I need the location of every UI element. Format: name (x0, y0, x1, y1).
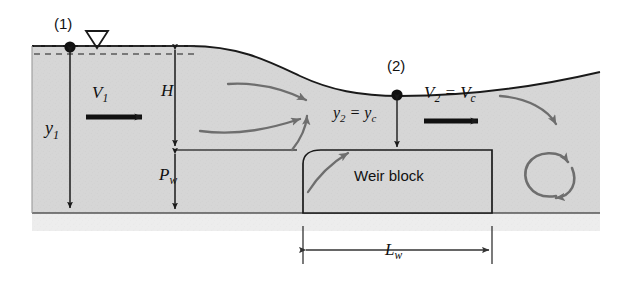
weir-length-label: Lw (385, 241, 402, 262)
critical-velocity-equals: = (440, 83, 460, 102)
velocity-upstream-subscript: 1 (102, 92, 108, 105)
weir-height-symbol: P (159, 165, 169, 184)
diagram-canvas (0, 0, 621, 289)
weir-height-subscript: w (169, 174, 177, 187)
critical-velocity-label: V2 = Vc (424, 84, 476, 105)
depth-upstream-symbol: y (45, 118, 53, 138)
velocity-upstream-label: V1 (92, 84, 108, 105)
critical-velocity-tail-symbol: V (460, 83, 470, 102)
station-label-2: (2) (387, 58, 405, 73)
critical-depth-tail-subscript: c (371, 112, 376, 124)
critical-velocity-lead-symbol: V (424, 83, 434, 102)
critical-depth-label: y2 = yc (333, 105, 376, 124)
weir-length-subscript: w (394, 249, 402, 262)
station-label-1: (1) (54, 16, 72, 31)
critical-depth-equals: = (346, 104, 365, 121)
head-label: H (161, 82, 173, 99)
weir-block-label: Weir block (354, 168, 424, 183)
critical-velocity-tail-subscript: c (471, 92, 476, 105)
station-dot-icon-2 (391, 89, 402, 100)
weir-height-label: Pw (159, 166, 177, 187)
depth-upstream-label: y1 (45, 119, 59, 141)
weir-flow-diagram: (1) (2) y1 V1 H Pw y2 = yc V2 = Vc Weir … (0, 0, 621, 289)
depth-upstream-subscript: 1 (53, 128, 59, 142)
channel-bed (32, 213, 600, 231)
velocity-upstream-symbol: V (92, 83, 102, 102)
station-dot-icon-1 (64, 41, 75, 52)
